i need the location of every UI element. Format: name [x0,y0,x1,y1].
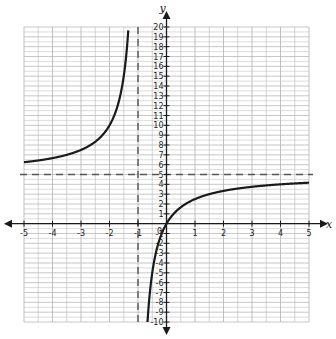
x-tick-label: -4 [49,229,57,238]
y-tick-label: 19 [153,33,163,42]
x-tick-label: -1 [134,229,142,238]
y-tick-label: -3 [156,249,164,258]
y-tick-label: -9 [156,308,164,317]
y-tick-label: -10 [150,318,163,327]
y-tick-label: -2 [156,239,164,248]
right-branch-curve [148,183,310,322]
x-tick-label: 5 [306,229,311,238]
y-tick-label: -6 [156,279,164,288]
y-tick-label: -4 [156,259,164,268]
y-tick-label: 9 [158,131,163,140]
x-tick-label: -3 [77,229,85,238]
x-axis-label: x [326,218,333,231]
x-tick-label: -5 [20,229,28,238]
y-tick-label: 11 [153,112,163,121]
y-tick-label: 5 [158,171,163,180]
y-tick-label: 14 [153,82,163,91]
y-tick-label: 18 [153,43,163,52]
y-tick-label: -1 [156,230,164,239]
x-tick-label: 4 [278,229,283,238]
left-branch-curve [24,30,128,162]
x-tick-label: 3 [249,229,254,238]
y-tick-label: 3 [158,190,163,199]
y-tick-label: 4 [158,180,163,189]
y-tick-label: 2 [158,200,163,209]
y-tick-label: 7 [158,151,163,160]
y-tick-label: 1 [158,210,163,219]
y-tick-label: 15 [153,72,163,81]
y-tick-label: -5 [156,269,164,278]
y-tick-label: 6 [158,161,163,170]
y-tick-label: -7 [156,289,164,298]
y-tick-label: 20 [153,23,163,32]
y-tick-label: 16 [153,62,163,71]
y-tick-label: -8 [156,298,164,307]
y-tick-label: 12 [153,102,163,111]
x-tick-label: 1 [192,229,197,238]
x-tick-label: 2 [221,229,226,238]
x-axis-left-arrow-icon [4,220,12,228]
y-tick-label: 10 [153,121,163,130]
rational-function-graph: -5-4-3-2-1123450-10-9-8-7-6-5-4-3-2-1123… [0,0,336,339]
y-tick-label: 8 [158,141,163,150]
x-tick-label: -2 [106,229,114,238]
y-tick-label: 17 [153,53,163,62]
y-tick-label: 13 [153,92,163,101]
y-axis-label: y [158,2,166,15]
y-axis-down-arrow-icon [163,327,171,335]
